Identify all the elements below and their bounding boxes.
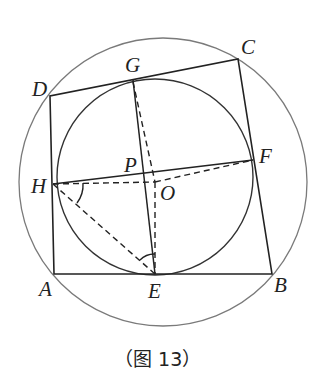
quadrilateral-abcd [50,59,272,274]
angle-mark-h [77,183,83,203]
label-f: F [258,144,272,168]
label-o: O [160,181,175,205]
label-p: P [123,153,137,177]
geometry-figure: D G C F P H O A E B （图 13） [0,0,316,387]
label-e: E [147,279,161,303]
label-c: C [241,35,256,59]
label-d: D [31,77,47,101]
label-b: B [274,273,287,297]
label-g: G [125,53,140,77]
chord-ge [133,80,155,274]
figure-caption: （图 13） [114,348,201,370]
label-h: H [30,174,48,198]
label-a: A [37,277,52,301]
